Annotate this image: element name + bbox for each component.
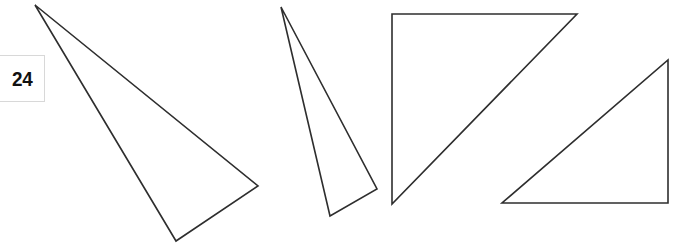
triangle-figures xyxy=(0,0,680,243)
triangle-2-narrow xyxy=(281,7,377,216)
triangle-4-right-bottom-right xyxy=(502,60,668,203)
triangle-1-obtuse xyxy=(35,5,258,241)
triangle-3-right-top-left xyxy=(392,14,577,204)
